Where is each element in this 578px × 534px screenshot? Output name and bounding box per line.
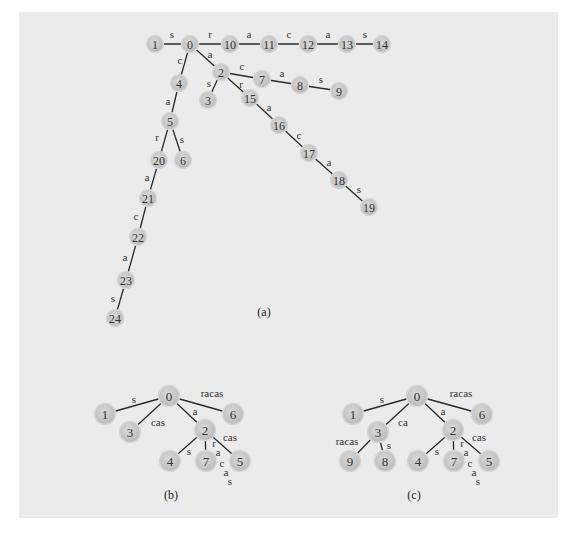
node-label: 4 (415, 454, 422, 469)
node-17: 17 (301, 145, 318, 162)
edge-label: c (178, 54, 183, 66)
node-1: 1 (147, 36, 164, 53)
node-9: 9 (331, 83, 348, 100)
node-7: 7 (196, 451, 217, 472)
node-label: 15 (244, 92, 256, 106)
node-4: 4 (171, 75, 188, 92)
edge-label: s (363, 28, 367, 40)
stacked-edge-label-char: s (476, 475, 480, 487)
node-5: 5 (479, 451, 500, 472)
edge-label: a (441, 405, 446, 417)
node-21: 21 (140, 190, 157, 207)
edge-label: c (297, 129, 302, 141)
caption-b: (b) (164, 488, 178, 502)
node-label: 16 (273, 119, 285, 133)
node-0: 0 (182, 36, 199, 53)
node-0: 0 (407, 386, 428, 407)
node-label: 6 (180, 154, 186, 168)
node-1: 1 (95, 404, 116, 425)
node-label: 11 (263, 38, 275, 52)
edge-label: s (319, 73, 323, 85)
edge-label: a (247, 28, 252, 40)
edge-label: racas (201, 387, 224, 399)
edge-label: s (380, 393, 384, 405)
trie-diagram: sracasascasracascasracas0110111213142378… (0, 0, 578, 534)
edge-label: s (111, 292, 115, 304)
node-label: 4 (176, 77, 182, 91)
node-9: 9 (340, 451, 361, 472)
caption-a: (a) (257, 305, 270, 319)
node-label: 18 (333, 174, 345, 188)
node-10: 10 (222, 36, 239, 53)
edge-label: c (287, 28, 292, 40)
node-15: 15 (242, 90, 259, 107)
node-4: 4 (408, 451, 429, 472)
edge-label: s (435, 445, 439, 457)
node-5: 5 (162, 113, 179, 130)
node-6: 6 (472, 404, 493, 425)
node-label: 19 (363, 201, 375, 215)
node-label: 8 (382, 454, 389, 469)
node-1: 1 (343, 404, 364, 425)
node-2: 2 (443, 420, 464, 441)
node-label: 3 (127, 425, 134, 440)
edge-label: a (267, 101, 272, 113)
edge-label: racas (450, 387, 473, 399)
node-8: 8 (292, 77, 309, 94)
node-label: 1 (350, 407, 357, 422)
node-16: 16 (271, 117, 288, 134)
node-label: 1 (152, 38, 158, 52)
node-label: 1 (102, 407, 109, 422)
node-label: 4 (167, 454, 174, 469)
node-label: 20 (153, 154, 165, 168)
edge-label: a (326, 28, 331, 40)
edge-label: c (134, 210, 139, 222)
node-4: 4 (160, 451, 181, 472)
node-label: 3 (205, 94, 211, 108)
node-22: 22 (130, 229, 147, 246)
node-label: 5 (167, 115, 173, 129)
node-8: 8 (375, 451, 396, 472)
node-14: 14 (374, 36, 391, 53)
edge-label: s (357, 183, 361, 195)
caption-c: (c) (407, 488, 420, 502)
edge-label: c (240, 60, 245, 72)
node-label: 2 (218, 66, 224, 80)
edge-label: s (132, 393, 136, 405)
node-label: 6 (230, 407, 237, 422)
node-3: 3 (200, 92, 217, 109)
edge-label: cas (472, 431, 486, 443)
edge-label: r (239, 78, 243, 90)
node-label: 3 (375, 425, 382, 440)
node-18: 18 (331, 172, 348, 189)
node-12: 12 (300, 36, 317, 53)
node-20: 20 (151, 152, 168, 169)
node-label: 7 (203, 454, 210, 469)
node-2: 2 (213, 64, 230, 81)
node-0: 0 (159, 386, 180, 407)
edge-label: s (187, 445, 191, 457)
node-2: 2 (195, 420, 216, 441)
edge-label: cas (151, 416, 165, 428)
node-label: 6 (479, 407, 486, 422)
node-label: 8 (297, 79, 303, 93)
node-label: 13 (341, 38, 353, 52)
tree-b: scasracasascasracas01362475(b) (95, 386, 251, 503)
node-23: 23 (118, 272, 135, 289)
node-label: 5 (486, 454, 493, 469)
node-6: 6 (175, 152, 192, 169)
node-label: 12 (302, 38, 314, 52)
edge-label: s (170, 28, 174, 40)
node-label: 24 (109, 312, 121, 326)
node-5: 5 (230, 451, 251, 472)
node-6: 6 (223, 404, 244, 425)
node-11: 11 (261, 36, 278, 53)
node-3: 3 (368, 422, 389, 443)
node-label: 0 (166, 389, 173, 404)
node-label: 17 (303, 147, 315, 161)
node-label: 2 (202, 423, 209, 438)
node-7: 7 (444, 451, 465, 472)
node-19: 19 (361, 199, 378, 216)
node-13: 13 (339, 36, 356, 53)
edge-label: r (208, 28, 212, 40)
